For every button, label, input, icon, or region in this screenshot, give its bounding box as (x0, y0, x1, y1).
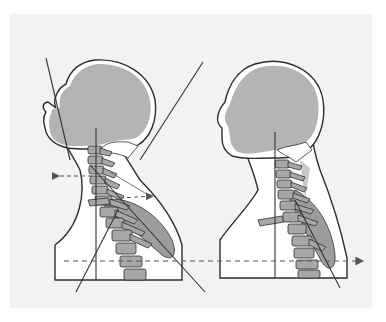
diagram-panel (10, 14, 372, 308)
posture-comparison-diagram (10, 14, 372, 308)
